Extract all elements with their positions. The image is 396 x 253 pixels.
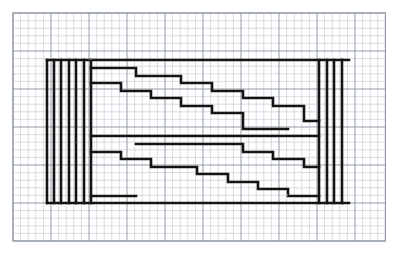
graph-paper-drawing	[0, 0, 396, 253]
drawing-canvas	[0, 0, 396, 253]
left-vertical-bar-group	[47, 60, 91, 203]
paper-background	[0, 0, 396, 253]
